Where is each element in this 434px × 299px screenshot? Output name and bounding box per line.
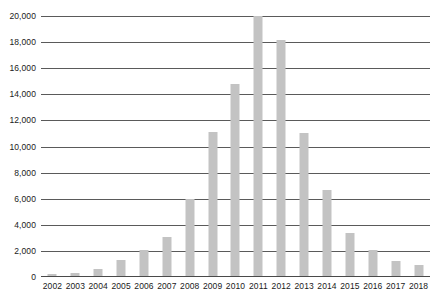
x-tick-label: 2015 [340, 281, 359, 291]
bar [231, 84, 240, 277]
x-tick-label: 2012 [272, 281, 291, 291]
x-axis-line [41, 276, 430, 277]
x-tick-label: 2016 [363, 281, 382, 291]
bar-chart: 02,0004,0006,0008,00010,00012,00014,0001… [0, 0, 434, 299]
bar-slot [133, 16, 156, 277]
bar-slot [384, 16, 407, 277]
bar [345, 233, 354, 277]
x-tick-label: 2017 [386, 281, 405, 291]
bar [185, 199, 194, 277]
x-tick-label: 2008 [180, 281, 199, 291]
bars-layer [41, 16, 430, 277]
x-tick-label: 2014 [317, 281, 336, 291]
bar [391, 261, 400, 277]
bar-slot [224, 16, 247, 277]
y-tick-label: 10,000 [9, 142, 36, 152]
y-tick-label: 14,000 [9, 89, 36, 99]
plot-area [41, 16, 430, 277]
bar [162, 237, 171, 277]
bar-slot [41, 16, 64, 277]
bar-slot [87, 16, 110, 277]
bar-slot [316, 16, 339, 277]
y-tick-label: 18,000 [9, 37, 36, 47]
x-tick-label: 2004 [89, 281, 108, 291]
bar-slot [361, 16, 384, 277]
x-tick-label: 2011 [249, 281, 268, 291]
x-axis: 2002200320042005200620072008200920102011… [41, 281, 430, 297]
bar [277, 40, 286, 278]
y-tick-label: 0 [31, 272, 36, 282]
x-tick-label: 2006 [134, 281, 153, 291]
bar [254, 16, 263, 277]
bar [323, 190, 332, 277]
x-tick-label: 2007 [157, 281, 176, 291]
y-tick-label: 12,000 [9, 115, 36, 125]
y-tick-label: 16,000 [9, 63, 36, 73]
y-tick-label: 6,000 [14, 194, 36, 204]
y-tick-label: 2,000 [14, 246, 36, 256]
bar-slot [270, 16, 293, 277]
bar [368, 250, 377, 277]
bar [300, 133, 309, 277]
bar-slot [247, 16, 270, 277]
y-tick-label: 8,000 [14, 168, 36, 178]
x-tick-label: 2003 [66, 281, 85, 291]
y-tick-label: 4,000 [14, 220, 36, 230]
x-tick-label: 2010 [226, 281, 245, 291]
x-tick-label: 2005 [111, 281, 130, 291]
bar [139, 250, 148, 277]
x-tick-label: 2013 [294, 281, 313, 291]
bar-slot [178, 16, 201, 277]
bar [117, 260, 126, 277]
bar-slot [407, 16, 430, 277]
y-tick-label: 20,000 [9, 11, 36, 21]
x-tick-label: 2009 [203, 281, 222, 291]
bar-slot [110, 16, 133, 277]
bar [208, 132, 217, 277]
bar-slot [293, 16, 316, 277]
bar-slot [201, 16, 224, 277]
bar-slot [64, 16, 87, 277]
x-tick-label: 2002 [43, 281, 62, 291]
x-tick-label: 2018 [409, 281, 428, 291]
bar-slot [338, 16, 361, 277]
bar-slot [155, 16, 178, 277]
y-axis: 02,0004,0006,0008,00010,00012,00014,0001… [0, 0, 40, 299]
